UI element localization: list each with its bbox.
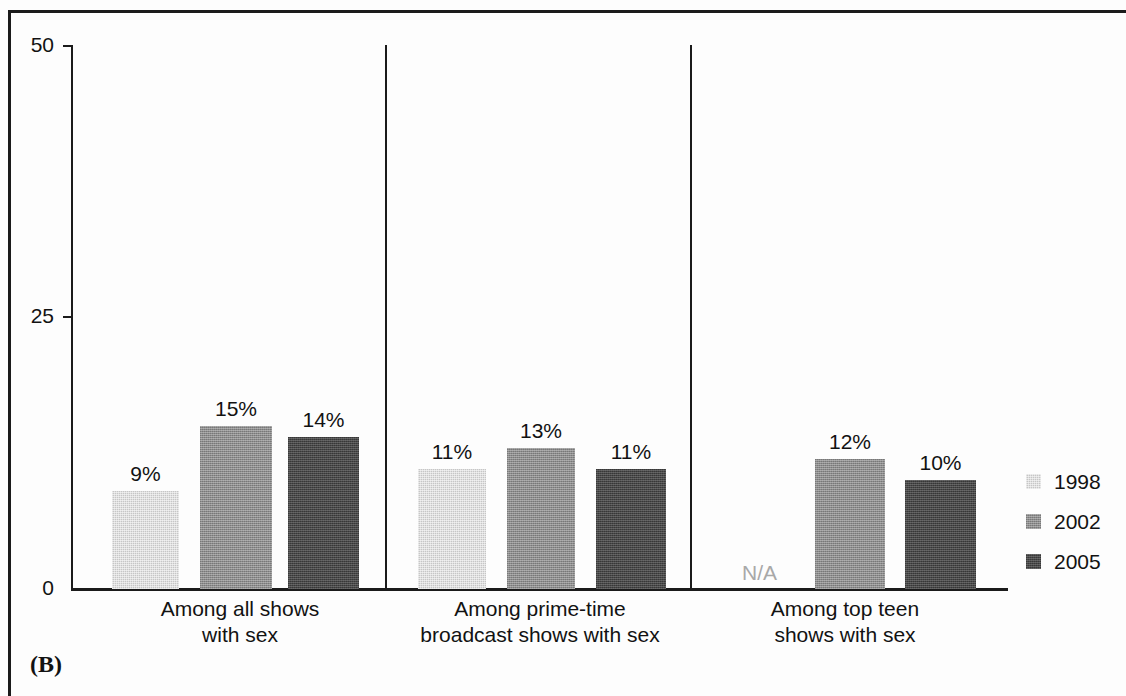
legend-swatch-2005-icon: [1026, 554, 1041, 569]
bar-2002-top-teen: [815, 459, 885, 589]
bar-2002-prime-time: [507, 448, 575, 589]
legend-swatch-2002-icon: [1026, 514, 1041, 529]
value-label-2005-all-shows: 14%: [288, 409, 359, 430]
bar-2005-all-shows: [288, 437, 359, 589]
bar-2002-all-shows: [200, 426, 272, 589]
category-label-line-1: Among prime-time: [390, 596, 690, 622]
bar-1998-all-shows: [112, 491, 179, 589]
legend-swatch-1998-icon: [1026, 474, 1041, 489]
category-label-line-1: Among all shows: [95, 596, 385, 622]
category-label-line-2: broadcast shows with sex: [390, 622, 690, 648]
figure-root: 50 25 0 9% 15% 14% 11% 13% 11: [0, 0, 1126, 696]
bar-2005-top-teen: [905, 480, 976, 589]
category-label-prime-time: Among prime-time broadcast shows with se…: [390, 596, 690, 649]
category-label-line-1: Among top teen: [695, 596, 995, 622]
bars-layer: [0, 0, 1126, 589]
bar-1998-prime-time: [418, 469, 486, 589]
legend-label-1998: 1998: [1054, 471, 1101, 492]
legend-item-1998: 1998: [1026, 470, 1101, 492]
value-label-2002-all-shows: 15%: [200, 398, 272, 419]
category-label-all-shows: Among all shows with sex: [95, 596, 385, 649]
value-label-2002-prime-time: 13%: [507, 420, 575, 441]
value-label-2005-top-teen: 10%: [905, 452, 976, 473]
legend-label-2005: 2005: [1054, 551, 1101, 572]
value-label-2002-top-teen: 12%: [815, 431, 885, 452]
legend-item-2005: 2005: [1026, 550, 1101, 572]
category-label-line-2: with sex: [95, 622, 385, 648]
value-label-1998-top-teen-na: N/A: [742, 562, 777, 583]
panel-caption: (B): [30, 652, 62, 676]
bar-chart-plot: 50 25 0 9% 15% 14% 11% 13% 11: [0, 0, 1126, 696]
category-label-top-teen: Among top teen shows with sex: [695, 596, 995, 649]
legend-item-2002: 2002: [1026, 510, 1101, 532]
legend-label-2002: 2002: [1054, 511, 1101, 532]
value-label-1998-all-shows: 9%: [112, 463, 179, 484]
category-label-line-2: shows with sex: [695, 622, 995, 648]
value-label-2005-prime-time: 11%: [596, 441, 666, 462]
bar-2005-prime-time: [596, 469, 666, 589]
value-label-1998-prime-time: 11%: [418, 441, 486, 462]
